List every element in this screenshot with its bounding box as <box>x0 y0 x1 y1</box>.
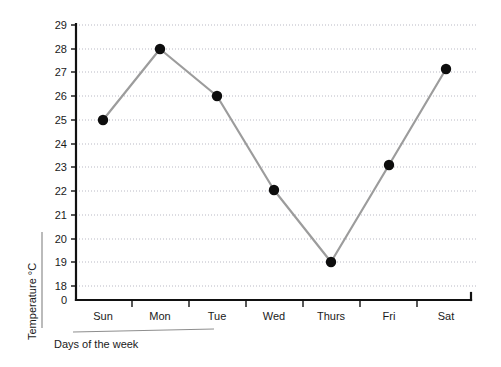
chart-svg: 29 28 27 26 25 24 23 22 21 20 19 18 0 Su… <box>0 0 501 367</box>
x-label-underline <box>73 329 214 332</box>
y-axis-title: Temperature °C <box>26 263 38 340</box>
data-point-sun <box>98 115 108 125</box>
y-tick-label-24: 24 <box>55 138 67 150</box>
y-axis-zero-label: 0 <box>61 294 67 306</box>
data-point-mon <box>155 44 165 54</box>
data-series-temperature <box>98 44 451 267</box>
y-tick-label-18: 18 <box>55 280 67 292</box>
y-tick-label-27: 27 <box>55 66 67 78</box>
data-point-thurs <box>326 257 336 267</box>
y-tick-label-21: 21 <box>55 209 67 221</box>
x-tick-labels: Sun Mon Tue Wed Thurs Fri Sat <box>93 310 454 322</box>
y-tick-label-25: 25 <box>55 114 67 126</box>
x-axis-title: Days of the week <box>54 338 139 350</box>
y-tick-label-26: 26 <box>55 90 67 102</box>
x-tick-label-mon: Mon <box>149 310 170 322</box>
y-tick-label-20: 20 <box>55 233 67 245</box>
y-tick-label-19: 19 <box>55 256 67 268</box>
x-tick-label-thurs: Thurs <box>317 310 346 322</box>
y-tick-labels: 29 28 27 26 25 24 23 22 21 20 19 18 0 <box>55 19 67 306</box>
x-tick-label-sat: Sat <box>438 310 455 322</box>
series-line-temperature <box>103 49 446 262</box>
data-point-fri <box>384 160 394 170</box>
y-tick-label-28: 28 <box>55 43 67 55</box>
x-tick-label-wed: Wed <box>263 310 285 322</box>
y-tick-label-22: 22 <box>55 185 67 197</box>
data-point-sat <box>441 64 451 74</box>
gridlines <box>76 25 478 286</box>
y-tick-label-29: 29 <box>55 19 67 31</box>
y-tick-label-23: 23 <box>55 161 67 173</box>
axis-lines <box>76 24 471 300</box>
x-tick-label-sun: Sun <box>93 310 113 322</box>
underline-rules <box>42 232 214 332</box>
data-point-tue <box>212 91 222 101</box>
data-point-wed <box>269 185 279 195</box>
line-chart: 29 28 27 26 25 24 23 22 21 20 19 18 0 Su… <box>0 0 501 367</box>
x-tick-label-fri: Fri <box>383 310 396 322</box>
x-tick-label-tue: Tue <box>208 310 227 322</box>
